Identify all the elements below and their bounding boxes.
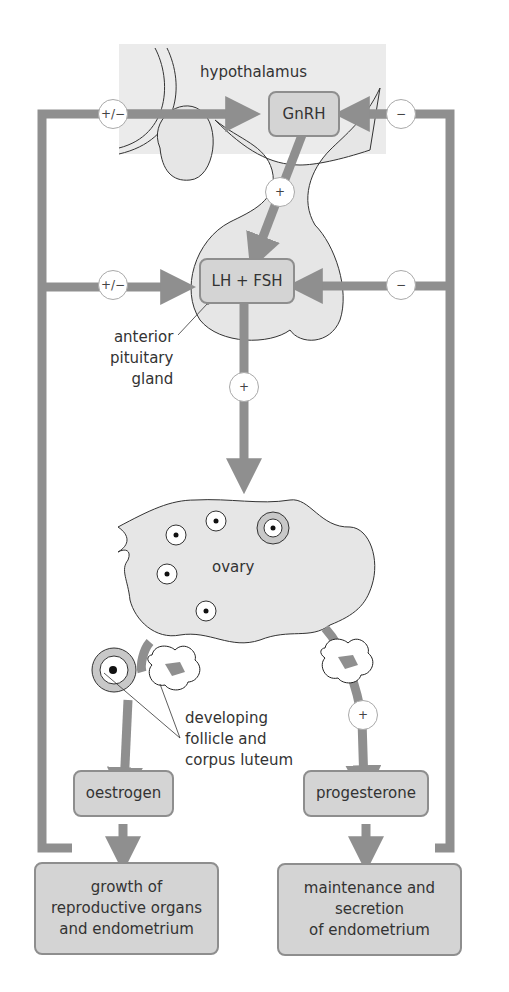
gnrh-box[interactable]: GnRH: [268, 91, 340, 137]
progesterone-label: progesterone: [316, 783, 416, 804]
sign-oestrogen-lhfsh: +/−: [98, 270, 128, 300]
follicle-corpus-luteum-label: developing follicle and corpus luteum: [185, 708, 293, 771]
sign-corpus-progesterone: +: [348, 700, 378, 730]
lh-fsh-label: LH + FSH: [212, 271, 283, 292]
sign-progesterone-gnrh: −: [386, 99, 416, 129]
gnrh-label: GnRH: [283, 104, 326, 125]
hypothalamus-label: hypothalamus: [200, 63, 307, 81]
sign-lhfsh-ovary: +: [229, 372, 259, 402]
ovary-label: ovary: [212, 558, 254, 576]
progesterone-effect-label: maintenance and secretion of endometrium: [304, 878, 435, 941]
oestrogen-box[interactable]: oestrogen: [73, 770, 174, 817]
lh-fsh-box[interactable]: LH + FSH: [199, 258, 295, 304]
progesterone-box[interactable]: progesterone: [303, 770, 429, 817]
diagram-canvas: [0, 0, 509, 992]
sign-gnrh-pituitary: +: [265, 177, 295, 207]
oestrogen-effect-label: growth of reproductive organs and endome…: [51, 877, 202, 940]
pituitary-label: anterior pituitary gland: [110, 327, 173, 390]
oestrogen-label: oestrogen: [86, 783, 161, 804]
progesterone-effect-box[interactable]: maintenance and secretion of endometrium: [277, 863, 462, 956]
oestrogen-effect-box[interactable]: growth of reproductive organs and endome…: [34, 862, 219, 955]
sign-oestrogen-gnrh: +/−: [98, 99, 128, 129]
sign-progesterone-lhfsh: −: [386, 270, 416, 300]
